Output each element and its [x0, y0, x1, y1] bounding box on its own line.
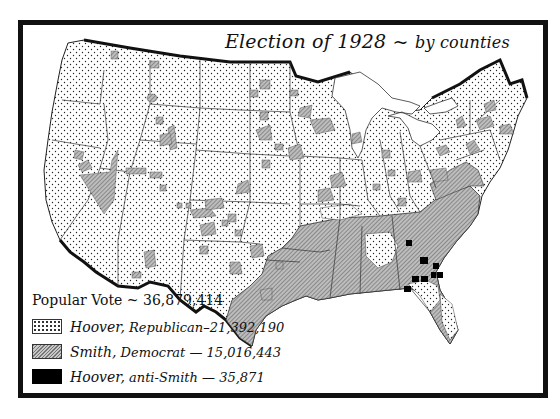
legend-votes: –21,392,190	[203, 320, 284, 335]
map-title: Election of 1928 ~ by counties	[225, 30, 510, 52]
legend-party: Democrat	[121, 345, 186, 360]
popular-vote-total: Popular Vote ~ 36,879,414	[32, 292, 284, 308]
legend-party: Republican	[129, 320, 203, 335]
legend-item-smith-democrat: Smith, Democrat — 15,016,443	[32, 339, 284, 364]
legend-votes: — 35,871	[202, 370, 265, 385]
legend-candidate: Smith,	[70, 344, 116, 360]
legend-item-hoover-anti-smith: Hoover, anti-Smith — 35,871	[32, 364, 284, 389]
legend-candidate: Hoover,	[70, 369, 125, 385]
dotted-swatch-icon	[32, 319, 62, 334]
legend-votes: — 15,016,443	[189, 345, 281, 360]
legend-item-hoover-republican: Hoover, Republican–21,392,190	[32, 314, 284, 339]
solid-swatch-icon	[32, 369, 62, 384]
title-sub: by counties	[415, 33, 510, 52]
legend: Popular Vote ~ 36,879,414 Hoover, Republ…	[32, 292, 284, 389]
title-main: Election of 1928 ~	[225, 30, 409, 52]
hatched-swatch-icon	[32, 344, 62, 359]
legend-candidate: Hoover,	[70, 319, 125, 335]
legend-party: anti-Smith	[129, 370, 198, 385]
